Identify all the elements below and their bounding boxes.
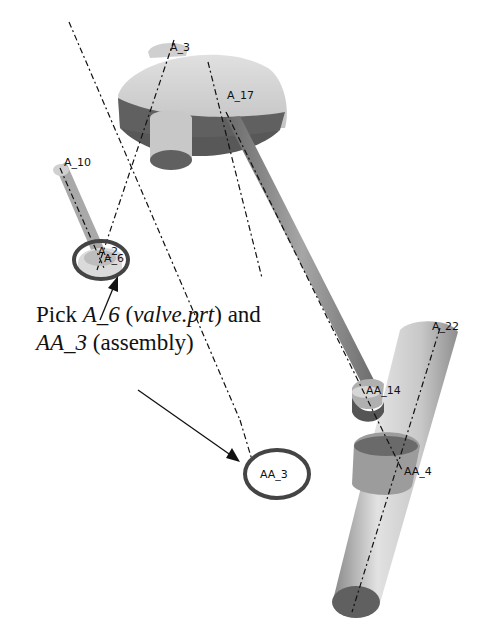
caption-prefix: Pick [36,302,83,327]
caption-assembly: (assembly) [87,330,194,355]
axis-label-a22[interactable]: A_22 [432,320,459,333]
axis-label-a10[interactable]: A_10 [64,156,91,169]
instruction-caption-line-1: Pick A_6 (valve.prt) and [36,302,261,328]
axis-label-aa14[interactable]: AA_14 [366,384,401,397]
axis-label-aa4[interactable]: AA_4 [404,465,432,478]
axis-label-aa3[interactable]: AA_3 [260,468,288,481]
axis-label-a6[interactable]: A_6 [104,252,124,265]
axis-aa3-tail[interactable] [240,420,252,460]
caption-axis-a6: A_6 [83,302,120,327]
push-rod-part[interactable] [226,116,378,392]
instruction-caption-line-2: AA_3 (assembly) [36,330,194,356]
caption-part-name: valve.prt [133,302,214,327]
axis-label-a3[interactable]: A_3 [170,41,190,54]
caption-close: ) and [214,302,261,327]
axis-label-a17[interactable]: A_17 [227,89,254,102]
arrowhead-aa3-icon [226,448,240,462]
caption-axis-aa3: AA_3 [36,330,87,355]
arrow-to-aa3 [138,390,232,456]
axis-a17-line[interactable] [226,112,402,470]
caption-open-paren: ( [120,302,133,327]
rocker-cap-part[interactable] [118,43,287,170]
